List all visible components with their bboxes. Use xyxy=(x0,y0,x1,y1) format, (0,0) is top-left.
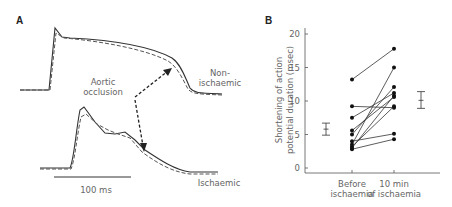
scale-bar-label: 100 ms xyxy=(80,185,112,195)
data-point xyxy=(392,66,396,70)
pair-line xyxy=(352,87,394,135)
svg-text:10: 10 xyxy=(289,96,300,106)
panel-a-label: A xyxy=(16,15,23,26)
data-point xyxy=(392,94,396,98)
pair-line xyxy=(352,68,394,145)
paired-data xyxy=(350,47,396,152)
data-point xyxy=(392,85,396,89)
panel-b-label: B xyxy=(265,15,272,26)
figure: A Aortic occlusion Non- ischaemic Ischae… xyxy=(0,0,452,207)
data-point xyxy=(350,116,354,120)
aortic-occlusion-label-1: Aortic xyxy=(91,77,116,87)
svg-text:15: 15 xyxy=(289,63,300,73)
x-tick-after-1: 10 min xyxy=(379,179,409,189)
pair-line xyxy=(352,96,394,148)
svg-text:0: 0 xyxy=(295,163,300,173)
data-point xyxy=(350,147,354,151)
data-point xyxy=(350,104,354,108)
aortic-occlusion-label-2: occlusion xyxy=(83,87,123,97)
data-point xyxy=(392,137,396,141)
data-point xyxy=(392,47,396,51)
svg-text:5: 5 xyxy=(295,130,300,140)
non-ischaemic-label-1: Non- xyxy=(210,68,230,78)
arrow-to-ischaemic xyxy=(135,100,143,146)
non-ischaemic-label-2: ischaemic xyxy=(199,78,242,88)
arrow-to-non-ischaemic xyxy=(135,71,168,97)
arrow-head-icon xyxy=(163,68,172,76)
data-point xyxy=(392,104,396,108)
pair-line xyxy=(352,49,394,80)
data-point xyxy=(350,78,354,82)
ischaemic-trace-solid xyxy=(40,107,218,172)
x-ticks xyxy=(352,170,394,173)
svg-text:20: 20 xyxy=(289,29,300,39)
ischaemic-trace-dashed xyxy=(40,114,218,174)
y-ticks xyxy=(305,34,308,168)
data-point xyxy=(392,132,396,136)
data-point xyxy=(350,133,354,137)
ischaemic-label: Ischaemic xyxy=(198,178,241,188)
svg-text:Shortening of action: Shortening of action xyxy=(274,57,284,143)
x-tick-before-1: Before xyxy=(338,179,366,189)
data-point xyxy=(350,128,354,132)
non-ischaemic-trace-dashed xyxy=(20,33,222,95)
non-ischaemic-trace-solid xyxy=(20,28,222,94)
x-tick-after-2: of ischaemia xyxy=(367,189,421,199)
